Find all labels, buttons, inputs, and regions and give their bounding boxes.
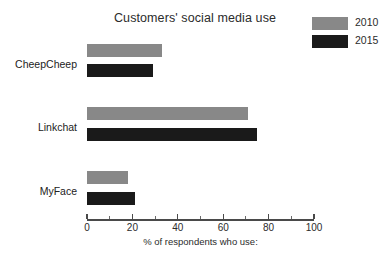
x-tick [223,214,224,219]
x-tick-label: 100 [306,222,323,233]
bar-linkchat-2010 [87,107,248,120]
bar-myface-2010 [87,171,128,184]
x-tick-label: 20 [127,222,138,233]
x-tick [268,214,269,219]
x-tick [86,214,87,219]
x-minor-tick [109,216,110,220]
x-minor-tick [200,216,201,220]
x-tick [177,214,178,219]
category-label: MyFace [40,185,77,197]
x-tick [132,214,133,219]
x-tick-label: 40 [172,222,183,233]
bar-cheepcheep-2010 [87,44,162,57]
bar-myface-2015 [87,192,135,205]
x-minor-tick [291,216,292,220]
x-minor-tick [155,216,156,220]
x-tick-label: 0 [84,222,90,233]
x-tick-label: 60 [218,222,229,233]
bar-cheepcheep-2015 [87,64,153,77]
category-label: CheepCheep [15,58,77,70]
category-label: Linkchat [38,121,77,133]
bar-linkchat-2015 [87,128,257,141]
x-axis-label: % of respondents who use: [87,236,314,247]
chart-figure: Customers' social media use 2010 2015 % … [0,0,390,261]
x-minor-tick [245,216,246,220]
x-axis-line [87,219,314,221]
plot-area: % of respondents who use: CheepCheepLink… [0,0,390,261]
x-tick [313,214,314,219]
x-tick-label: 80 [263,222,274,233]
